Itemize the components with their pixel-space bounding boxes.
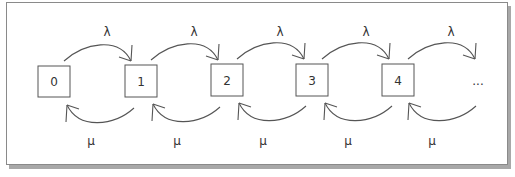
svg-text:3: 3 [308, 74, 316, 88]
backward-arrow-icon [408, 103, 476, 121]
backward-arrow-icon [238, 103, 306, 121]
svg-text:1: 1 [137, 75, 145, 89]
forward-arrow-icon [64, 45, 132, 61]
svg-text:4: 4 [394, 74, 402, 88]
lambda-label: λ [103, 25, 110, 39]
state-3: 3 [296, 64, 328, 96]
mu-label: μ [259, 134, 267, 148]
state-0: 0 [38, 66, 70, 97]
lambda-label: λ [190, 25, 197, 39]
state-2: 2 [211, 64, 243, 96]
lambda-label: λ [276, 25, 283, 39]
mu-label: μ [428, 134, 436, 148]
backward-arrow-icon [66, 105, 134, 123]
forward-arrow-icon [408, 43, 476, 59]
backward-arrow-icon [324, 103, 392, 121]
svg-text:0: 0 [50, 75, 58, 89]
ellipsis-state: ... [472, 74, 483, 88]
state-1: 1 [125, 65, 157, 97]
forward-arrow-icon [322, 43, 390, 59]
forward-arrow-icon [151, 44, 219, 60]
svg-text:2: 2 [223, 74, 231, 88]
lambda-label: λ [362, 25, 369, 39]
mu-label: μ [173, 134, 181, 148]
birth-death-diagram: 0 1 2 3 4 ... λ λ λ λ λ μ μ μ μ μ [0, 0, 515, 177]
backward-arrow-icon [152, 104, 220, 122]
mu-label: μ [344, 134, 352, 148]
mu-label: μ [87, 134, 95, 148]
state-4: 4 [382, 64, 414, 96]
forward-arrow-icon [237, 43, 305, 59]
lambda-label: λ [447, 25, 454, 39]
